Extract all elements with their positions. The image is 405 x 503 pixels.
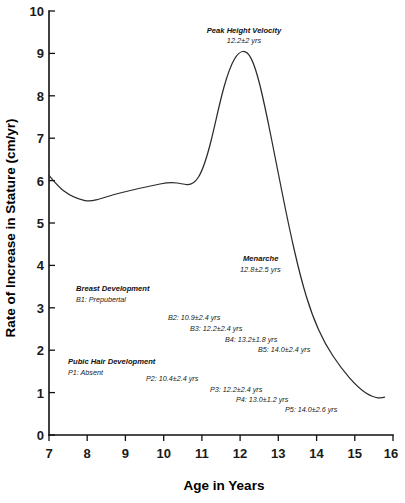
y-tick-label: 0 xyxy=(37,428,44,443)
y-tick-label: 10 xyxy=(30,4,44,19)
pubic-stage-p5: P5: 14.0±2.6 yrs xyxy=(285,405,338,414)
annotation-breast-development: Breast Development B1: Prepubertal B2: 1… xyxy=(76,284,311,354)
breast-stage-b1: B1: Prepubertal xyxy=(76,295,126,304)
x-tick-label: 15 xyxy=(348,446,362,461)
x-tick-label: 11 xyxy=(195,446,209,461)
x-tick-label: 12 xyxy=(233,446,247,461)
pubic-annotation-title: Pubic Hair Development xyxy=(68,357,156,366)
y-axis-title: Rate of Increase in Stature (cm/yr) xyxy=(3,118,18,337)
x-tick-label: 13 xyxy=(271,446,285,461)
y-tick-label: 7 xyxy=(37,131,44,146)
breast-stage-b3: B3: 12.2±2.4 yrs xyxy=(190,324,243,333)
growth-velocity-chart: 0 1 2 3 4 5 6 7 8 9 10 7 8 xyxy=(0,0,405,503)
y-tick-label: 4 xyxy=(37,258,45,273)
x-axis-tick-labels: 7 8 9 10 11 12 13 14 15 16 xyxy=(45,446,398,461)
menarche-annotation-value: 12.8±2.5 yrs xyxy=(240,265,281,274)
y-tick-label: 6 xyxy=(37,174,44,189)
annotation-peak-height-velocity: Peak Height Velocity 12.2±2 yrs xyxy=(207,26,282,45)
pubic-stage-p2: P2: 10.4±2.4 yrs xyxy=(146,374,199,383)
chart-canvas: 0 1 2 3 4 5 6 7 8 9 10 7 8 xyxy=(0,0,405,503)
x-tick-label: 10 xyxy=(156,446,170,461)
y-tick-label: 1 xyxy=(37,386,44,401)
x-axis-ticks xyxy=(49,435,393,441)
y-axis-ticks xyxy=(49,11,55,435)
pubic-stage-p4: P4: 13.0±1.2 yrs xyxy=(236,395,289,404)
x-tick-label: 8 xyxy=(84,446,91,461)
x-axis-title: Age in Years xyxy=(184,478,265,493)
breast-stage-b5: B5: 14.0±2.4 yrs xyxy=(258,345,311,354)
breast-annotation-title: Breast Development xyxy=(76,284,150,293)
y-tick-label: 5 xyxy=(37,216,44,231)
y-tick-label: 3 xyxy=(37,301,44,316)
pubic-stage-p1: P1: Absent xyxy=(68,368,104,377)
x-tick-label: 9 xyxy=(122,446,129,461)
y-tick-label: 2 xyxy=(37,343,44,358)
breast-stage-b4: B4: 13.2±1.8 yrs xyxy=(225,335,278,344)
y-tick-label: 8 xyxy=(37,89,44,104)
x-tick-label: 16 xyxy=(384,446,398,461)
menarche-annotation-title: Menarche xyxy=(243,254,279,263)
annotation-pubic-hair-development: Pubic Hair Development P1: Absent P2: 10… xyxy=(68,357,338,414)
x-tick-label: 7 xyxy=(45,446,52,461)
peak-annotation-title: Peak Height Velocity xyxy=(207,26,282,35)
breast-stage-b2: B2: 10.9±2.4 yrs xyxy=(168,313,221,322)
velocity-curve xyxy=(49,51,385,397)
pubic-stage-p3: P3: 12.2±2.4 yrs xyxy=(210,385,263,394)
peak-annotation-value: 12.2±2 yrs xyxy=(227,36,262,45)
y-tick-label: 9 xyxy=(37,46,44,61)
annotation-menarche: Menarche 12.8±2.5 yrs xyxy=(240,254,281,274)
y-axis-tick-labels: 0 1 2 3 4 5 6 7 8 9 10 xyxy=(30,4,45,443)
x-tick-label: 14 xyxy=(309,446,324,461)
